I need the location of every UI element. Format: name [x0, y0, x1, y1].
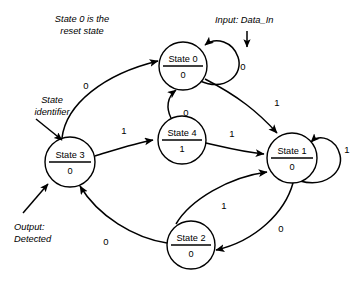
state-node-state-1[interactable]: State 1 0 [267, 133, 317, 183]
annotation-output-note: Output: Detected [14, 184, 52, 244]
state-output-state-1: 0 [289, 162, 294, 172]
state-output-state-2: 0 [188, 249, 193, 259]
annotation-output-line-1: Output: [14, 222, 45, 232]
transition-s2-to-s1: 1 [176, 172, 267, 224]
transition-s3-to-s4: 1 [95, 125, 153, 156]
annotation-input-label: Input: Data_In [215, 15, 273, 25]
transition-s4-to-s1: 1 [206, 128, 264, 154]
fsm-diagram: 0 1 0 1 1 0 1 [0, 0, 358, 287]
transition-label-s0-s1: 1 [274, 97, 279, 108]
state-name-state-0: State 0 [168, 54, 197, 64]
transition-s1-to-s2: 0 [216, 183, 293, 250]
annotation-reset-line-1: State 0 is the [55, 14, 109, 24]
transition-s0-to-s1: 1 [205, 79, 280, 133]
state-node-state-3[interactable]: State 3 0 [45, 137, 95, 187]
transition-s2-to-s3: 0 [80, 186, 167, 247]
transition-s4-to-s0: 0 [168, 90, 189, 118]
state-output-state-0: 0 [180, 70, 185, 80]
state-output-state-3: 0 [67, 166, 72, 176]
state-node-state-4[interactable]: State 4 1 [158, 116, 206, 164]
transition-label-s0-self: 0 [240, 61, 245, 72]
annotation-state-id-line-1: State [41, 95, 63, 105]
transition-label-s3-s4: 1 [121, 125, 126, 136]
annotation-output-line-2: Detected [14, 234, 52, 244]
transition-label-s1-s2: 0 [278, 223, 283, 234]
transition-label-s2-s1: 1 [221, 200, 226, 211]
annotation-reset-line-2: reset state [60, 26, 103, 36]
annotation-output-arrow [23, 184, 48, 213]
transition-label-s4-s1: 1 [229, 128, 234, 139]
state-node-state-2[interactable]: State 2 0 [167, 221, 215, 269]
annotation-state-id-arrow [36, 119, 62, 140]
annotation-reset-note: State 0 is the reset state [55, 14, 109, 36]
transition-label-s3-s0: 0 [83, 80, 88, 91]
state-diagram-canvas: 0 1 0 1 1 0 1 [0, 0, 358, 287]
annotation-state-id-line-2: identifier [34, 107, 70, 117]
state-node-state-0[interactable]: State 0 0 [159, 42, 207, 90]
transition-label-s2-s3: 0 [103, 236, 108, 247]
state-output-state-4: 1 [179, 144, 184, 154]
state-name-state-3: State 3 [55, 150, 84, 160]
state-name-state-4: State 4 [167, 128, 196, 138]
transition-label-s1-self: 1 [344, 144, 349, 155]
state-name-state-1: State 1 [277, 146, 306, 156]
transition-s3-to-s0: 0 [62, 61, 158, 138]
state-name-state-2: State 2 [176, 233, 205, 243]
annotation-state-identifier-note: State identifier [34, 95, 70, 140]
